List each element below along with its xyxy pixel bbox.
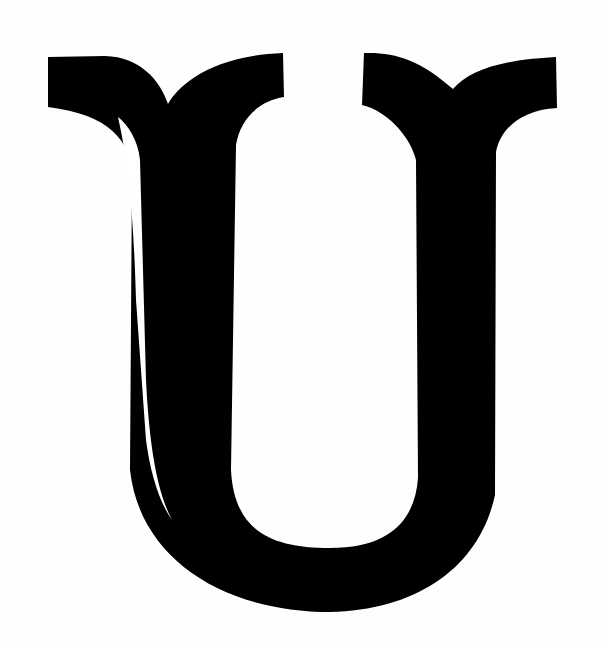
decorative-letter-u-icon xyxy=(0,0,604,645)
letter-canvas: U xyxy=(0,0,604,645)
